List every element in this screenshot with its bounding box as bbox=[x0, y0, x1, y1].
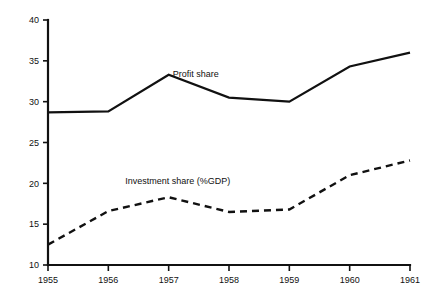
series-annotation-label: Investment share (%GDP) bbox=[125, 176, 230, 186]
chart-canvas: 10152025303540 1955195619571958195919601… bbox=[0, 0, 436, 303]
line-chart: 10152025303540 1955195619571958195919601… bbox=[0, 0, 436, 303]
x-tick-label: 1958 bbox=[219, 275, 239, 285]
series-lines bbox=[48, 53, 410, 245]
x-tick-label: 1961 bbox=[400, 275, 420, 285]
x-tick-label: 1955 bbox=[38, 275, 58, 285]
y-tick-label: 30 bbox=[29, 97, 39, 107]
y-axis: 10152025303540 bbox=[29, 15, 48, 270]
series-annotations: Profit shareInvestment share (%GDP) bbox=[125, 69, 230, 186]
series-line-profit-share bbox=[48, 53, 410, 113]
y-tick-label: 25 bbox=[29, 138, 39, 148]
y-tick-label: 20 bbox=[29, 179, 39, 189]
x-axis-tick-labels: 1955195619571958195919601961 bbox=[38, 275, 420, 285]
x-axis: 1955195619571958195919601961 bbox=[38, 265, 420, 285]
y-tick-label: 35 bbox=[29, 56, 39, 66]
x-tick-label: 1957 bbox=[159, 275, 179, 285]
x-tick-label: 1959 bbox=[279, 275, 299, 285]
y-tick-label: 10 bbox=[29, 260, 39, 270]
y-tick-label: 40 bbox=[29, 15, 39, 25]
x-tick-label: 1960 bbox=[340, 275, 360, 285]
x-tick-label: 1956 bbox=[98, 275, 118, 285]
series-annotation-label: Profit share bbox=[173, 69, 219, 79]
y-tick-label: 15 bbox=[29, 219, 39, 229]
series-line-investment-share-gdp bbox=[48, 160, 410, 244]
y-axis-tick-labels: 10152025303540 bbox=[29, 15, 39, 270]
